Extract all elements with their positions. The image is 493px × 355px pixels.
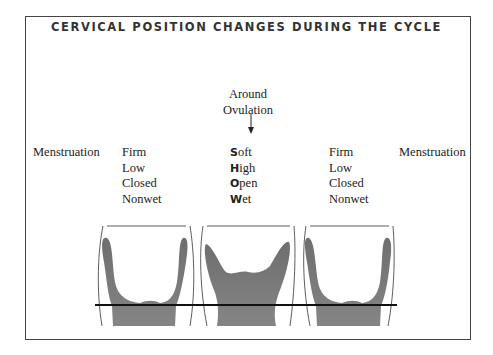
cervix-low-closed-right (304, 226, 394, 326)
cervix-illustrations (0, 0, 493, 355)
cervix-low-closed-left (98, 226, 193, 326)
cervix-high-open (201, 226, 295, 326)
